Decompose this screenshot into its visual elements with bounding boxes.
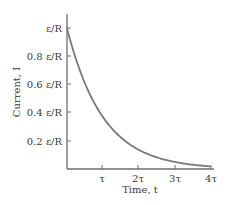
y-tick-label-0-8: 0.8 ε/R [27,51,63,62]
current-decay-curve [67,28,211,166]
chart-svg: ε/R 0.8 ε/R 0.6 ε/R 0.4 ε/R 0.2 ε/R τ 2τ… [0,0,230,205]
y-tick-label-0-2: 0.2 ε/R [27,136,63,147]
y-tick-label-1: ε/R [46,23,63,34]
x-tick-label-2tau: 2τ [132,173,144,184]
rc-current-decay-chart: ε/R 0.8 ε/R 0.6 ε/R 0.4 ε/R 0.2 ε/R τ 2τ… [0,0,230,205]
x-tick-label-tau: τ [99,173,105,184]
x-tick-label-3tau: 3τ [169,173,181,184]
y-axis-label: Current, I [11,67,22,117]
y-tick-label-0-4: 0.4 ε/R [27,107,63,118]
x-tick-label-4tau: 4τ [205,173,217,184]
x-axis-label: Time, t [122,184,158,195]
y-tick-label-0-6: 0.6 ε/R [27,79,63,90]
